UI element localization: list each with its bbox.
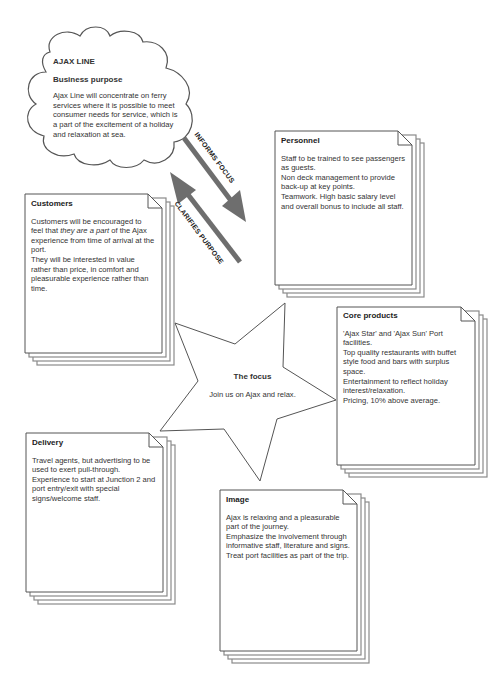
personnel-line: Non deck management to provide back-up a… bbox=[281, 173, 409, 192]
personnel-card: Personnel Staff to be trained to see pas… bbox=[281, 136, 409, 211]
image-heading: Image bbox=[226, 495, 352, 505]
clarifies-purpose-arrow bbox=[170, 172, 240, 262]
focus-slogan: Join us on Ajax and relax. bbox=[195, 390, 310, 400]
focus-text: The focus Join us on Ajax and relax. bbox=[195, 372, 310, 399]
image-line: Emphasize the involvement through inform… bbox=[226, 532, 352, 551]
informs-focus-arrow bbox=[184, 138, 246, 222]
business-purpose-heading: Business purpose bbox=[53, 75, 183, 85]
personnel-line: Staff to be trained to see passengers as… bbox=[281, 154, 409, 173]
image-line: Treat port facilities as part of the tri… bbox=[226, 551, 352, 561]
business-purpose-text: Ajax Line will concentrate on ferry serv… bbox=[53, 91, 183, 139]
core-products-card: Core products 'Ajax Star' and 'Ajax Sun'… bbox=[343, 311, 469, 405]
core-products-heading: Core products bbox=[343, 311, 469, 321]
core-products-line: 'Ajax Star' and 'Ajax Sun' Port faciliti… bbox=[343, 329, 469, 348]
personnel-heading: Personnel bbox=[281, 136, 409, 146]
focus-heading: The focus bbox=[195, 372, 310, 382]
delivery-card: Delivery Travel agents, but advertising … bbox=[32, 438, 160, 504]
delivery-heading: Delivery bbox=[32, 438, 160, 448]
customers-line: Customers will be encouraged to feel tha… bbox=[31, 217, 155, 255]
company-name: AJAX LINE bbox=[53, 57, 183, 67]
core-products-line: Entertainment to reflect holiday interes… bbox=[343, 377, 469, 396]
customers-emphasis: they are a part bbox=[60, 226, 109, 235]
personnel-line: Teamwork. High basic salary level and ov… bbox=[281, 192, 409, 211]
delivery-line: Travel agents, but advertising to be use… bbox=[32, 456, 160, 475]
image-card: Image Ajax is relaxing and a pleasurable… bbox=[226, 495, 352, 561]
customers-heading: Customers bbox=[31, 199, 155, 209]
delivery-line: Experience to start at Junction 2 and po… bbox=[32, 475, 160, 504]
core-products-line: Top quality restaurants with buffet styl… bbox=[343, 348, 469, 377]
customers-card: Customers Customers will be encouraged t… bbox=[31, 199, 155, 293]
customers-line: They will be interested in value rather … bbox=[31, 255, 155, 293]
core-products-line: Pricing, 10% above average. bbox=[343, 396, 469, 406]
cloud-text: AJAX LINE Business purpose Ajax Line wil… bbox=[53, 57, 183, 139]
image-line: Ajax is relaxing and a pleasurable part … bbox=[226, 513, 352, 532]
